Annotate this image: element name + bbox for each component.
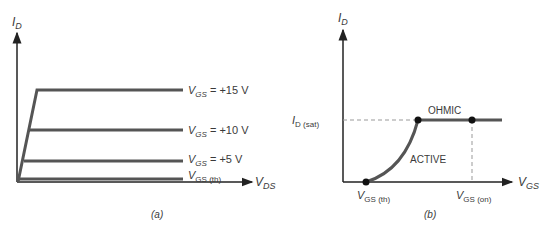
vgs-th-point [363,179,370,186]
vgs-on-point [469,117,476,124]
active-region-label: ACTIVE [410,154,446,165]
active-curve [366,120,418,182]
curve-vgs-15 [18,90,183,182]
y-axis-label: ID [338,11,348,27]
vgs-th-label: VGS (th) [357,189,390,204]
curve-label-15: VGS = +15 V [188,84,249,99]
caption-a: (a) [151,209,163,220]
caption-b: (b) [424,209,436,220]
y-axis-label: ID [12,15,22,31]
panel-b-transconductance-curve: ID VGS ID (sat) VGS (th) VGS (on) OHMIC … [292,11,539,220]
mosfet-characteristics-diagram: ID VDS VGS = +15 V VGS = +10 V VGS = +5 … [0,0,546,230]
id-sat-label: ID (sat) [292,114,319,129]
vgs-on-label: VGS (on) [456,189,492,204]
x-axis-label: VGS [518,175,539,191]
panel-a-drain-curves: ID VDS VGS = +15 V VGS = +10 V VGS = +5 … [12,15,276,220]
x-axis-label: VDS [255,175,276,191]
ohmic-region-label: OHMIC [428,105,461,116]
curve-label-5: VGS = +5 V [188,153,243,168]
knee-point [415,117,422,124]
curve-label-10: VGS = +10 V [188,124,249,139]
